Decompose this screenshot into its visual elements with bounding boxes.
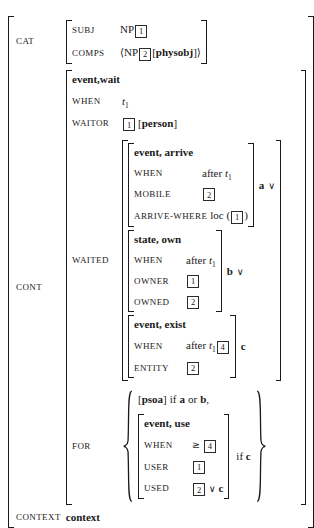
- waitor-value: 1[person]: [122, 117, 177, 132]
- used-attr: USED: [144, 482, 192, 495]
- use-avm: event, use WHEN≥4 USER1 USED2 ∨ c: [138, 414, 229, 500]
- tag-box: 2: [187, 362, 199, 375]
- tag-box: 4: [217, 341, 229, 354]
- or-symbol: ∨: [209, 483, 216, 494]
- tag-box: 2: [193, 483, 205, 496]
- own-when-attr: WHEN: [134, 254, 186, 267]
- left-brace: [122, 390, 133, 503]
- use-when-attr: WHEN: [144, 439, 192, 452]
- exist-avm: event, exist WHENafter t14 ENTITY2: [128, 315, 236, 378]
- feature-structure-figure: CAT SUBJ NP1 COMPS ⟨NP2[physobj]⟩ CONT: [0, 0, 307, 528]
- disjunct-b: state, own WHENafter t1 OWNER1 OWNED2 b∨: [128, 230, 244, 312]
- outer-avm: CAT SUBJ NP1 COMPS ⟨NP2[physobj]⟩ CONT: [8, 16, 314, 528]
- subj-row: SUBJ NP1: [72, 23, 148, 38]
- own-type: state, own: [134, 233, 181, 246]
- comps-row: COMPS ⟨NP2[physobj]⟩: [72, 46, 201, 61]
- use-type: event, use: [144, 417, 190, 430]
- user-attr: USER: [144, 461, 192, 474]
- tag-box: 4: [204, 440, 216, 453]
- context-row: CONTEXT context: [16, 511, 306, 524]
- comps-restriction: physobj: [156, 46, 193, 58]
- tag-box: 1: [135, 25, 147, 38]
- use-condition: event, use WHEN≥4 USER1 USED2 ∨ c if c: [138, 414, 251, 500]
- when-attr: WHEN: [72, 95, 122, 108]
- waited-value: event, arrive WHENafter t1 MOBILE2 ARRIV…: [122, 140, 281, 381]
- entity-attr: ENTITY: [134, 362, 186, 375]
- psoa-type: psoa: [142, 393, 163, 405]
- tag-box: 2: [139, 48, 151, 61]
- or-symbol: ∨: [237, 265, 244, 278]
- tag-box: 1: [193, 461, 205, 474]
- if-c-condition: if c: [236, 450, 250, 463]
- owner-attr: OWNER: [134, 275, 186, 288]
- waited-attr: WAITED: [72, 254, 122, 267]
- waited-row: WAITED event, arrive WHENafter t1 MOBILE…: [72, 140, 281, 381]
- cont-type: event,wait: [72, 73, 120, 86]
- arrive-avm: event, arrive WHENafter t1 MOBILE2 ARRIV…: [128, 143, 254, 227]
- for-row: FOR [psoa]ifaorb, event, use: [72, 390, 267, 503]
- cont-row: CONT event,wait WHEN t1 WAITOR 1[person]…: [16, 70, 306, 506]
- comps-value: ⟨NP2[physobj]⟩: [120, 46, 201, 61]
- disjunct-a: event, arrive WHENafter t1 MOBILE2 ARRIV…: [128, 143, 275, 227]
- geq-symbol: ≥: [192, 439, 200, 450]
- psoa-condition: [psoa]ifaorb,: [138, 393, 251, 406]
- disjunct-c-label: c: [241, 340, 246, 353]
- arrive-type: event, arrive: [134, 146, 193, 159]
- waitor-restriction: person: [142, 117, 174, 129]
- exist-when-value: after t14: [186, 339, 230, 354]
- or-symbol: ∨: [268, 179, 275, 192]
- tag-box: 1: [187, 275, 199, 288]
- used-value: 2 ∨ c: [192, 482, 223, 497]
- context-value: context: [66, 511, 100, 524]
- waitor-attr: WAITOR: [72, 117, 122, 130]
- exist-when-attr: WHEN: [134, 340, 186, 353]
- cont-label: CONT: [16, 281, 66, 294]
- subj-attr: SUBJ: [72, 24, 120, 37]
- when-value: t1: [122, 95, 129, 108]
- use-when-value: ≥4: [192, 438, 217, 453]
- arrive-when-attr: WHEN: [134, 167, 202, 180]
- owned-attr: OWNED: [134, 296, 186, 309]
- for-attr: FOR: [72, 440, 122, 453]
- own-avm: state, own WHENafter t1 OWNER1 OWNED2: [128, 230, 222, 312]
- cat-avm: SUBJ NP1 COMPS ⟨NP2[physobj]⟩: [66, 20, 207, 64]
- arrive-when-value: after t1: [202, 167, 232, 180]
- disjunct-a-label: a∨: [259, 179, 275, 192]
- tag-box: 2: [187, 296, 199, 309]
- arrive-where-attr: ARRIVE-WHERE: [134, 210, 207, 223]
- comps-attr: COMPS: [72, 47, 120, 60]
- subj-value: NP1: [120, 23, 148, 38]
- cat-label: CAT: [16, 35, 66, 48]
- disjunct-c: event, exist WHENafter t14 ENTITY2 c: [128, 315, 246, 378]
- cont-avm: event,wait WHEN t1 WAITOR 1[person] WAIT…: [66, 70, 306, 506]
- disjunct-b-label: b∨: [227, 265, 244, 278]
- waitor-row: WAITOR 1[person]: [72, 117, 177, 132]
- for-set: [psoa]ifaorb, event, use WHEN≥4 USER1 US…: [122, 390, 267, 503]
- context-label: CONTEXT: [16, 511, 61, 524]
- rangle: ⟩: [197, 46, 201, 58]
- own-when-value: after t1: [186, 254, 216, 267]
- mobile-attr: MOBILE: [134, 188, 202, 201]
- right-brace: [256, 390, 267, 503]
- tag-box: 1: [123, 118, 135, 131]
- exist-type: event, exist: [134, 318, 186, 331]
- tag-box: 2: [203, 188, 215, 201]
- arrive-where-value: loc (1): [210, 209, 248, 224]
- cat-row: CAT SUBJ NP1 COMPS ⟨NP2[physobj]⟩: [16, 20, 306, 64]
- tag-box: 1: [231, 211, 243, 224]
- when-row: WHEN t1: [72, 95, 129, 108]
